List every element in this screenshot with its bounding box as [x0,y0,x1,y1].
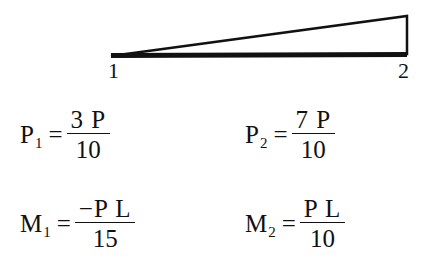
beam-line [111,55,407,56]
eq-symbol: P [245,121,259,149]
equals-sign: = [48,121,62,149]
eq-subscript: 2 [260,135,268,152]
denominator: 10 [76,134,101,164]
eq-symbol: P [20,121,34,149]
denominator: 10 [301,134,326,164]
eq-symbol: M [245,210,267,238]
fraction: P L 10 [300,196,346,253]
triangular-load [111,16,407,56]
numerator: 7 P [292,107,336,133]
eq-subscript: 1 [43,224,51,241]
eq-symbol: M [20,210,42,238]
equals-sign: = [273,121,287,149]
equals-sign: = [57,210,71,238]
numerator: 3 P [67,107,111,133]
fraction: 7 P 10 [292,107,336,164]
numerator: P L [300,196,346,222]
equation-m2: M2 = P L 10 [245,196,345,253]
node-1-label: 1 [108,60,119,82]
eq-subscript: 2 [268,224,276,241]
numerator: −P L [75,196,136,222]
fraction: 3 P 10 [67,107,111,164]
fraction: −P L 15 [75,196,136,253]
load-diagram [0,0,421,80]
equation-p2: P2 = 7 P 10 [245,107,335,164]
eq-subscript: 1 [35,135,43,152]
denominator: 10 [310,223,335,253]
equation-p1: P1 = 3 P 10 [20,107,110,164]
denominator: 15 [93,223,118,253]
node-2-label: 2 [398,60,409,82]
equation-m1: M1 = −P L 15 [20,196,135,253]
equals-sign: = [282,210,296,238]
